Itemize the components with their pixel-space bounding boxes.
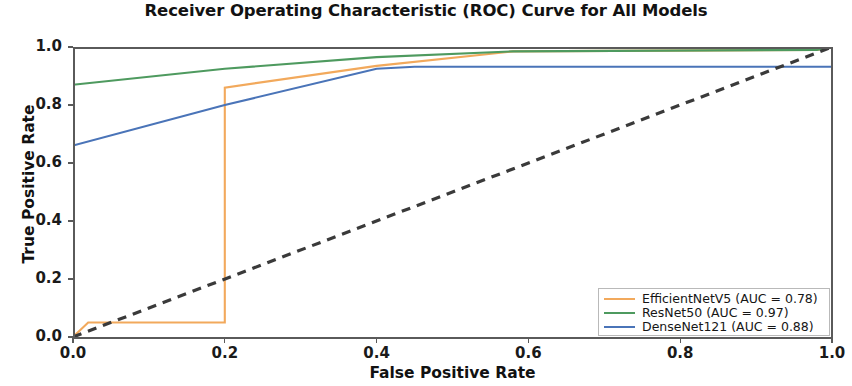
y-axis-label: True Positive Rate — [20, 74, 38, 294]
y-tick-mark — [68, 46, 73, 47]
x-tick-label: 0.0 — [43, 344, 103, 362]
x-tick-mark — [528, 338, 529, 343]
legend-label: ResNet50 (AUC = 0.97) — [642, 306, 789, 320]
y-tick-label: 0.0 — [2, 327, 62, 345]
series-line-densenet121 — [73, 67, 832, 146]
legend-label: EfficientNetV5 (AUC = 0.78) — [642, 292, 818, 306]
chart-legend: EfficientNetV5 (AUC = 0.78)ResNet50 (AUC… — [598, 288, 830, 336]
x-tick-label: 0.4 — [347, 344, 407, 362]
axis-spine-right — [831, 47, 833, 338]
y-tick-mark — [68, 162, 73, 163]
legend-color-swatch — [604, 312, 635, 315]
x-tick-label: 0.6 — [498, 344, 558, 362]
y-tick-mark — [68, 278, 73, 279]
axis-spine-top — [73, 47, 833, 49]
legend-label: DenseNet121 (AUC = 0.88) — [642, 320, 814, 334]
x-tick-label: 0.8 — [650, 344, 710, 362]
x-axis-label: False Positive Rate — [73, 364, 832, 382]
x-tick-label: 0.2 — [195, 344, 255, 362]
x-tick-mark — [680, 338, 681, 343]
y-tick-mark — [68, 104, 73, 105]
x-tick-label: 1.0 — [802, 344, 852, 362]
axis-spine-bottom — [73, 337, 833, 339]
legend-item[interactable]: EfficientNetV5 (AUC = 0.78) — [603, 292, 825, 306]
y-tick-mark — [68, 220, 73, 221]
y-tick-label: 1.0 — [2, 37, 62, 55]
legend-color-swatch — [604, 326, 635, 329]
legend-color-swatch — [604, 298, 635, 301]
legend-item[interactable]: ResNet50 (AUC = 0.97) — [603, 306, 825, 320]
roc-curve-figure: Receiver Operating Characteristic (ROC) … — [0, 0, 852, 386]
x-tick-mark — [831, 338, 832, 343]
x-tick-mark — [224, 338, 225, 343]
axis-spine-left — [73, 47, 75, 338]
x-tick-mark — [72, 338, 73, 343]
x-tick-mark — [376, 338, 377, 343]
legend-item[interactable]: DenseNet121 (AUC = 0.88) — [603, 320, 825, 334]
chart-title: Receiver Operating Characteristic (ROC) … — [0, 1, 852, 20]
